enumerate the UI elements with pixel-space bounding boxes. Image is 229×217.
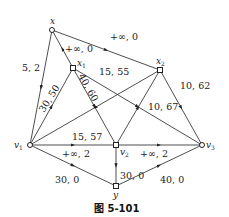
edge-label-x1-v2: 40, 60 bbox=[76, 72, 101, 104]
figure-caption: 图 5-101 bbox=[94, 203, 140, 214]
edge-label-x1-x: +∞, 0 bbox=[65, 43, 93, 54]
edge-label-x1-v3: 15, 55 bbox=[99, 66, 129, 77]
network-flow-diagram: 5, 2 +∞, 0 +∞, 0 30, 50 40, 60 15, 55 15… bbox=[0, 0, 229, 217]
edge-label-x-x2: +∞, 0 bbox=[110, 31, 138, 42]
edge-label-v1-y: 30, 0 bbox=[55, 174, 79, 185]
node-x2 bbox=[158, 68, 163, 73]
edge-label-x2-v3: 10, 62 bbox=[180, 80, 210, 91]
edge-label-v2-y: 30, 0 bbox=[120, 170, 144, 181]
edge-label-v2-v3: +∞, 2 bbox=[140, 148, 168, 159]
edge-label-x2-v1: 15, 57 bbox=[72, 131, 102, 142]
node-y bbox=[114, 184, 119, 189]
node-v2 bbox=[114, 143, 119, 148]
edge-label-x-v1: 5, 2 bbox=[22, 62, 40, 73]
node-label-x2: x2 bbox=[156, 56, 165, 67]
edge-label-v2-x2: 10, 67 bbox=[148, 101, 178, 112]
node-label-y: y bbox=[112, 190, 119, 200]
node-label-x: x bbox=[50, 16, 55, 26]
node-v3 bbox=[200, 143, 205, 148]
edge-label-y-v3: 40, 0 bbox=[160, 174, 184, 185]
node-label-v2: v2 bbox=[120, 147, 129, 158]
edge-label-v1-v2: +∞, 2 bbox=[62, 148, 90, 159]
node-x1 bbox=[71, 66, 76, 71]
edge-label-v1-x1: 30, 50 bbox=[36, 83, 61, 114]
node-label-x1: x1 bbox=[77, 58, 86, 69]
node-label-v3: v3 bbox=[206, 140, 215, 151]
node-v1 bbox=[28, 143, 33, 148]
node-label-v1: v1 bbox=[14, 140, 23, 151]
node-x bbox=[50, 28, 55, 33]
